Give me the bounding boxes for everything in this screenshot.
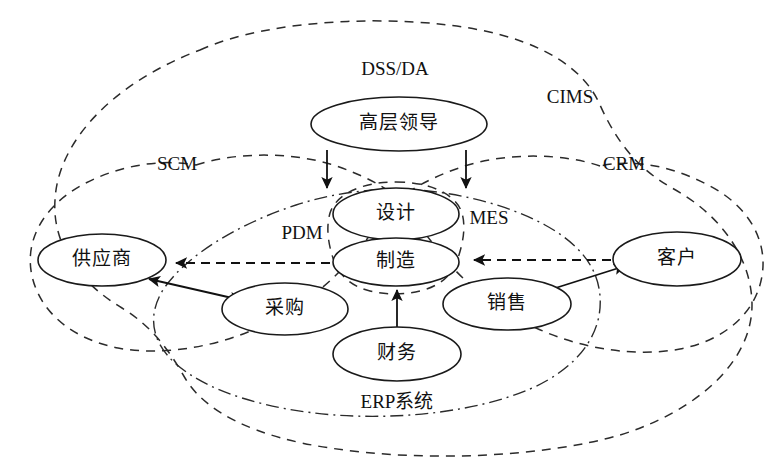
node-customer-label: 客户 <box>657 247 697 268</box>
zone-label-mes: MES <box>469 207 508 228</box>
zone-label-scm: SCM <box>157 153 197 174</box>
node-supplier[interactable]: 供应商 <box>38 234 166 286</box>
node-customer[interactable]: 客户 <box>613 232 741 286</box>
node-manufacture-label: 制造 <box>376 250 416 271</box>
node-procurement[interactable]: 采购 <box>222 283 348 335</box>
zone-label-cims: CIMS <box>547 86 593 107</box>
zone-label-dss-da: DSS/DA <box>361 58 429 79</box>
node-manufacture[interactable]: 制造 <box>333 238 459 286</box>
node-finance[interactable]: 财务 <box>333 327 461 381</box>
node-leadership[interactable]: 高层领导 <box>311 97 487 151</box>
node-sales-label: 销售 <box>487 292 527 313</box>
zone-label-erp: ERP系统 <box>361 391 434 412</box>
node-supplier-label: 供应商 <box>72 248 132 269</box>
node-design[interactable]: 设计 <box>333 188 459 240</box>
flow-supplier-procurement <box>149 279 241 300</box>
node-design-label: 设计 <box>376 202 416 223</box>
node-sales[interactable]: 销售 <box>443 278 571 330</box>
zone-label-crm: CRM <box>603 153 645 174</box>
node-layer: 高层领导 设计 制造 供应商 客户 采购 <box>38 97 741 381</box>
node-finance-label: 财务 <box>377 342 417 363</box>
diagram-canvas: 高层领导 设计 制造 供应商 客户 采购 <box>0 0 781 469</box>
node-leadership-label: 高层领导 <box>359 112 439 133</box>
cims-architecture-diagram: 高层领导 设计 制造 供应商 客户 采购 <box>0 0 781 469</box>
zone-label-pdm: PDM <box>281 222 322 243</box>
node-procurement-label: 采购 <box>265 297 305 318</box>
flow-sales-customer <box>546 266 625 291</box>
